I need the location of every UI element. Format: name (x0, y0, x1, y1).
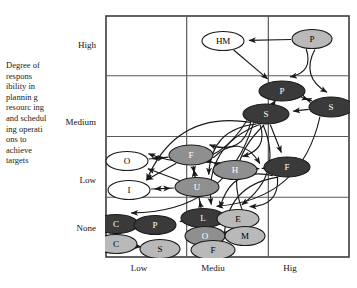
node-s-3[interactable] (309, 97, 350, 117)
node-f-5[interactable] (169, 145, 213, 165)
node-s-4[interactable] (243, 104, 289, 124)
y-tick-high: High (40, 40, 96, 50)
x-tick-medium: Mediu (178, 263, 248, 273)
node-e-12[interactable] (217, 210, 259, 229)
y-tick-medium: Medium (40, 117, 96, 127)
node-o-9[interactable] (106, 152, 148, 171)
node-hm-0[interactable] (202, 32, 244, 51)
y-tick-low: Low (40, 175, 96, 185)
diagram-root: Degree of respons ibility in plannin g r… (0, 0, 357, 288)
scatter-canvas (105, 15, 350, 258)
node-c-17[interactable] (105, 235, 137, 254)
node-f-19[interactable] (191, 241, 235, 259)
node-f-6[interactable] (264, 157, 310, 177)
node-p-2[interactable] (259, 81, 305, 101)
node-h-7[interactable] (213, 161, 257, 180)
node-i-10[interactable] (108, 181, 150, 200)
x-tick-high: Hig (255, 263, 325, 273)
plot-area: HMPPSSFFHUOILECPOMCSF (105, 15, 350, 258)
node-s-18[interactable] (140, 240, 180, 259)
y-axis-caption: Degree of respons ibility in plannin g r… (6, 60, 52, 166)
y-tick-none: None (40, 223, 96, 233)
node-u-8[interactable] (175, 178, 219, 197)
node-p-14[interactable] (134, 216, 176, 235)
x-tick-low: Low (104, 263, 174, 273)
node-p-1[interactable] (292, 30, 332, 49)
node-m-16[interactable] (225, 227, 265, 246)
node-c-13[interactable] (105, 215, 138, 234)
